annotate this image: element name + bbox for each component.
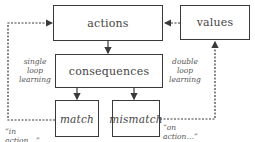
in-action-label: “in action…” [5,127,53,142]
actions-box: actions [53,5,163,41]
match-label: match [60,113,94,125]
mismatch-box: mismatch [112,100,160,137]
values-label: values [197,16,234,29]
single-loop-learning-note: single loop learning [18,57,52,84]
on-action-label: “on action…” [163,123,213,141]
double-loop-learning-note: double loop learning [168,57,202,84]
mismatch-label: mismatch [109,113,162,125]
match-box: match [55,100,99,137]
values-box: values [180,5,250,40]
actions-label: actions [87,17,128,30]
consequences-box: consequences [55,54,163,88]
consequences-label: consequences [69,65,149,78]
